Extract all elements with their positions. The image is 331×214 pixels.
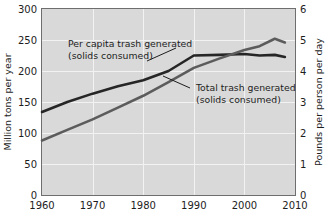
- total-trash-annotation-line1: Total trash generated: [195, 82, 296, 93]
- x-axis-tick-label: 1970: [80, 200, 105, 211]
- y-axis-left-tick-label: 100: [18, 128, 37, 139]
- per-capita-annotation-line1: Per capita trash generated: [68, 38, 192, 49]
- x-axis-tick-label: 1980: [130, 200, 155, 211]
- y-axis-left-tick-label: 300: [18, 4, 37, 15]
- x-axis-tick-label: 2010: [282, 200, 307, 211]
- y-axis-right-title: Pounds per person per day: [313, 38, 324, 166]
- y-axis-left-tick-labels: 050100150200250300: [18, 4, 37, 201]
- y-axis-right-tick-label: 5: [300, 35, 306, 46]
- y-axis-left-tick-label: 50: [24, 159, 37, 170]
- y-axis-right-tick-labels: 0123456: [300, 4, 306, 201]
- x-axis-tick-label: 1960: [29, 200, 54, 211]
- y-axis-left-tick-label: 200: [18, 66, 37, 77]
- y-axis-left-tick-label: 250: [18, 35, 37, 46]
- x-axis-tick-label: 1990: [181, 200, 206, 211]
- y-axis-left-title: Million tons per year: [2, 53, 13, 150]
- total-trash-annotation-line2: (solids consumed): [196, 94, 281, 105]
- trash-generation-line-chart: 050100150200250300 0123456 1960197019801…: [0, 0, 331, 214]
- x-axis-tick-labels: 196019701980199020002010: [29, 200, 307, 211]
- per-capita-annotation-line2: (solids consumed): [68, 50, 153, 61]
- y-axis-right-tick-label: 6: [300, 4, 306, 15]
- y-axis-right-tick-label: 1: [300, 159, 306, 170]
- y-axis-right-tick-label: 4: [300, 66, 306, 77]
- chart-container: 050100150200250300 0123456 1960197019801…: [0, 0, 331, 214]
- y-axis-right-tick-label: 0: [300, 190, 306, 201]
- y-axis-right-tick-label: 3: [300, 97, 306, 108]
- x-axis-tick-label: 2000: [232, 200, 257, 211]
- y-axis-right-tick-label: 2: [300, 128, 306, 139]
- y-axis-left-tick-label: 0: [31, 190, 37, 201]
- y-axis-left-tick-label: 150: [18, 97, 37, 108]
